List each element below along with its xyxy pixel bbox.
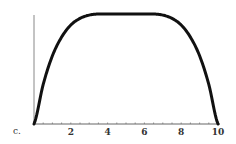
chart: 246810 c. (0, 0, 236, 144)
data-curve (34, 14, 218, 124)
x-tick-labels: 246810 (68, 127, 225, 137)
x-minor-ticks (34, 123, 218, 125)
panel-label: c. (13, 126, 21, 136)
x-tick-label: 8 (178, 127, 184, 137)
x-tick-label: 10 (212, 127, 225, 137)
x-tick-label: 4 (104, 127, 110, 137)
x-tick-label: 2 (68, 127, 74, 137)
x-tick-label: 6 (141, 127, 147, 137)
